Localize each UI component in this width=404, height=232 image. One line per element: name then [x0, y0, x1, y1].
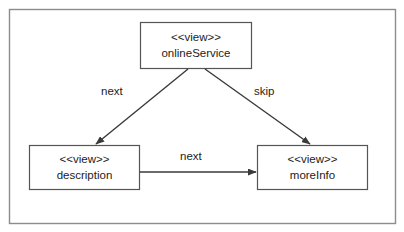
node-box-description[interactable] — [30, 146, 140, 190]
node-box-moreInfo[interactable] — [258, 146, 368, 190]
edge-label-next-description: next — [101, 85, 123, 97]
edge-label-skip-moreInfo: skip — [254, 85, 274, 97]
node-box-onlineService[interactable] — [141, 23, 252, 69]
diagram-canvas: <<view>> onlineService <<view>> descript… — [0, 0, 404, 232]
diagram-graphics — [0, 0, 404, 232]
edge-label-next-moreInfo: next — [180, 150, 202, 162]
